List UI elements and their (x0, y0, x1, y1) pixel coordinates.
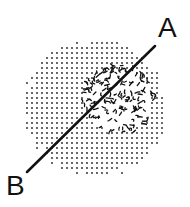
label-a: A (158, 14, 177, 42)
label-b: B (6, 172, 25, 200)
